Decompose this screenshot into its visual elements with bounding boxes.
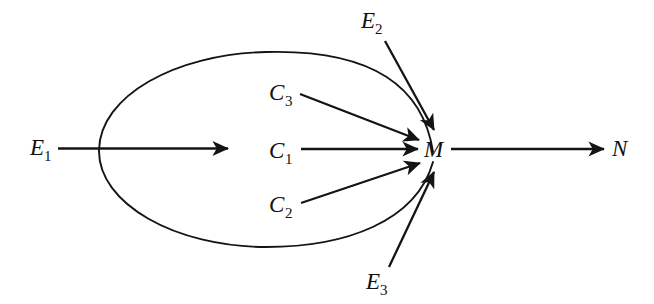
edge-c2-to-m [301,163,420,203]
node-c3-subscript: 3 [285,93,293,109]
edge-c3-to-m [300,94,419,140]
edge-e2-to-m [385,41,434,130]
node-c3: C 3 [269,80,293,109]
node-c2-subscript: 2 [285,205,293,221]
node-e3: E 3 [365,269,388,298]
node-e1-label: E [29,135,44,160]
node-e2-label: E [360,8,375,33]
node-n-label: N [611,136,629,161]
node-e3-label: E [365,269,380,294]
node-c1-label: C [269,138,285,163]
node-c1: C 1 [269,138,293,167]
node-e1-subscript: 1 [44,148,52,164]
node-c1-subscript: 1 [285,151,293,167]
node-m-label: M [423,137,445,162]
node-e3-subscript: 3 [380,282,388,298]
causal-diagram: E 1 E 2 E 3 C 3 C 1 C 2 M N [0,0,654,304]
node-c2-label: C [269,192,285,217]
node-n: N [611,136,629,161]
node-c3-label: C [269,80,285,105]
node-m: M [423,137,445,162]
node-e1: E 1 [29,135,52,164]
edge-e3-to-m [389,172,434,267]
node-e2: E 2 [360,8,383,37]
node-e2-subscript: 2 [375,21,383,37]
node-c2: C 2 [269,192,293,221]
diagram-canvas: E 1 E 2 E 3 C 3 C 1 C 2 M N [0,0,654,304]
